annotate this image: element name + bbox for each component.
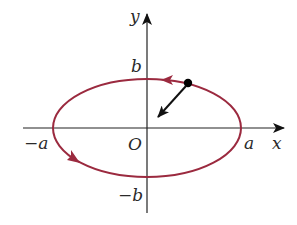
tick-label-b: b <box>131 56 142 76</box>
tick-label-neg-b: −b <box>118 185 143 205</box>
x-axis-label: x <box>272 133 282 153</box>
ellipse-orbit-diagram: y x O b −b a −a <box>0 0 297 225</box>
y-axis-label: y <box>129 6 140 26</box>
acceleration-vector <box>158 86 186 117</box>
diagram-svg: y x O b −b a −a <box>0 0 297 225</box>
tick-label-a: a <box>244 133 254 153</box>
tick-label-neg-a: −a <box>24 133 48 153</box>
origin-label: O <box>128 134 142 154</box>
